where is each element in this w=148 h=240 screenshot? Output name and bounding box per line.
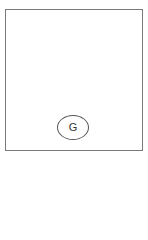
node-label: G (69, 122, 78, 133)
node-g[interactable]: G (57, 115, 89, 140)
